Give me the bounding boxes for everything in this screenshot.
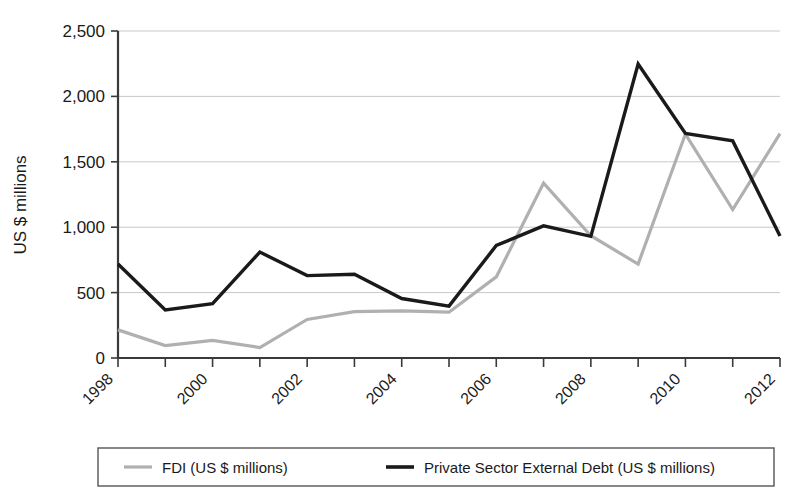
x-tick-label: 2002 <box>268 370 305 407</box>
y-tick-label: 1,500 <box>62 153 105 172</box>
series-line-private-sector-external-debt <box>118 64 780 310</box>
series-group <box>118 64 780 348</box>
y-axis-title: US $ millions <box>11 155 30 254</box>
x-tick-label: 1998 <box>79 370 116 407</box>
x-tick-group: 19982000200220042006200820102012 <box>79 358 780 407</box>
y-tick-group: 05001,0001,5002,0002,500 <box>62 22 118 368</box>
x-tick-label: 2000 <box>174 370 211 407</box>
x-tick-label: 2004 <box>363 370 400 407</box>
legend-label-fdi: FDI (US $ millions) <box>162 459 288 476</box>
chart-canvas: 05001,0001,5002,0002,500 199820002002200… <box>0 0 794 496</box>
x-tick-label: 2012 <box>741 370 778 407</box>
x-tick-label: 2008 <box>552 370 589 407</box>
chart-container: 05001,0001,5002,0002,500 199820002002200… <box>0 0 794 496</box>
y-tick-label: 0 <box>96 349 105 368</box>
x-tick-label: 2010 <box>646 370 683 407</box>
y-tick-label: 2,500 <box>62 22 105 41</box>
y-tick-label: 1,000 <box>62 218 105 237</box>
legend: FDI (US $ millions)Private Sector Extern… <box>98 448 774 486</box>
series-line-fdi <box>118 134 780 348</box>
y-tick-label: 2,000 <box>62 87 105 106</box>
line-chart: 05001,0001,5002,0002,500 199820002002200… <box>0 0 794 496</box>
x-tick-label: 2006 <box>457 370 494 407</box>
gridlines-group <box>118 31 780 293</box>
legend-label-private-sector-external-debt: Private Sector External Debt (US $ milli… <box>424 459 715 476</box>
y-tick-label: 500 <box>77 284 105 303</box>
